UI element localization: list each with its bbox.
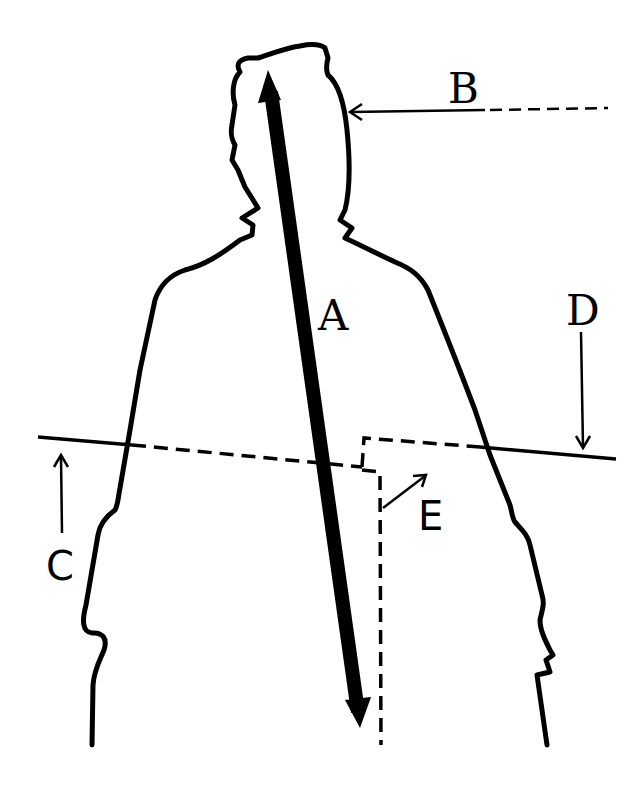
label-e: E <box>418 493 443 539</box>
label-d: D <box>566 286 600 335</box>
arrow-a-head-bottom <box>345 697 371 728</box>
arrow-a <box>258 70 371 728</box>
arrow-a-head-top <box>258 70 281 103</box>
arrow-d <box>576 332 590 448</box>
arrow-b <box>350 104 608 120</box>
label-c: C <box>46 543 74 589</box>
label-a: A <box>317 291 349 340</box>
silhouette-diagram: A B C D E <box>0 0 633 786</box>
label-b: B <box>448 64 479 113</box>
arrow-c <box>54 455 68 533</box>
